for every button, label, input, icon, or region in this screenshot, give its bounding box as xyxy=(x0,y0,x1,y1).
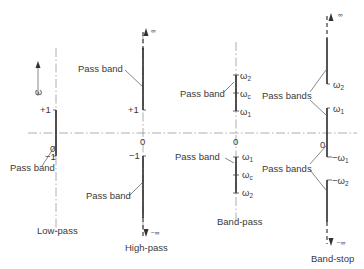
band-pass-upper-w1: ω1 xyxy=(240,106,251,118)
band-pass-upper-band-label: Pass band xyxy=(180,88,225,99)
high-pass-zero: 0 xyxy=(140,136,145,147)
high-pass-title: High-pass xyxy=(125,242,168,253)
high-pass-minus-inf: −∞ xyxy=(151,229,160,236)
band-pass-lower-w2: ω2 xyxy=(242,187,253,199)
up-arrow-icon xyxy=(329,13,334,21)
band-stop-plus-inf: ∞ xyxy=(338,11,343,18)
diagram-canvas: ω +1 0 −1 Pass band Low-pass ∞ +1 Pass b… xyxy=(0,0,364,269)
low-pass-plus-one: +1 xyxy=(40,104,51,115)
omega-axis-label: ω xyxy=(35,87,42,97)
high-pass-upper-leader xyxy=(125,70,143,87)
high-pass-lower-leader xyxy=(129,182,143,196)
band-pass-title: Band-pass xyxy=(217,216,263,227)
panel-low-pass: ω +1 0 −1 Pass band Low-pass xyxy=(10,48,78,236)
band-stop-upper-w1: ω1 xyxy=(333,103,344,115)
panel-high-pass: ∞ +1 Pass band 0 −1 −∞ Pass band High-pa… xyxy=(78,27,168,253)
band-stop-upper-w2: ω2 xyxy=(333,79,344,91)
band-stop-lower-leader-b xyxy=(310,170,326,190)
band-pass-lower-w1: ω1 xyxy=(242,151,253,163)
band-stop-upper-band-label: Pass bands xyxy=(262,90,312,101)
high-pass-upper-band-label: Pass band xyxy=(78,63,123,74)
band-stop-lower-leader-a xyxy=(310,146,326,164)
high-pass-lower-band-label: Pass band xyxy=(86,190,131,201)
band-pass-upper-wc: ωc xyxy=(240,88,251,100)
low-pass-band-label: Pass band xyxy=(10,162,55,173)
band-pass-lower-wc: ωc xyxy=(242,169,253,181)
band-pass-upper-w2: ω2 xyxy=(240,70,251,82)
high-pass-minus-one: −1 xyxy=(129,150,140,161)
panel-band-stop: ∞ ω2 ω1 Pass bands 0 −ω1 −ω2 Pass bands … xyxy=(262,11,354,264)
band-stop-zero: 0 xyxy=(320,139,325,150)
low-pass-title: Low-pass xyxy=(37,225,78,236)
up-arrow-icon xyxy=(144,28,149,36)
down-arrow-icon xyxy=(144,229,149,237)
down-arrow-icon xyxy=(329,238,334,246)
band-stop-title: Band-stop xyxy=(311,253,354,264)
band-pass-zero: 0 xyxy=(233,136,238,147)
band-stop-lower-band-label: Pass bands xyxy=(262,163,312,174)
high-pass-plus-one: +1 xyxy=(128,104,139,115)
filter-bands-diagram: ω +1 0 −1 Pass band Low-pass ∞ +1 Pass b… xyxy=(0,0,364,269)
band-stop-upper-leader-b xyxy=(310,100,326,115)
band-stop-upper-leader-a xyxy=(310,70,326,92)
band-stop-lower-w1: −ω1 xyxy=(332,152,349,164)
band-stop-lower-w2: −ω2 xyxy=(332,175,349,187)
band-stop-minus-inf: −∞ xyxy=(337,239,346,246)
band-pass-lower-leader xyxy=(225,158,234,163)
band-pass-upper-leader xyxy=(224,82,234,92)
band-pass-lower-band-label: Pass band xyxy=(175,151,220,162)
high-pass-plus-inf: ∞ xyxy=(151,27,156,34)
panel-band-pass: ω2 ωc ω1 Pass band 0 ω1 ωc ω2 Pass band … xyxy=(175,42,263,227)
